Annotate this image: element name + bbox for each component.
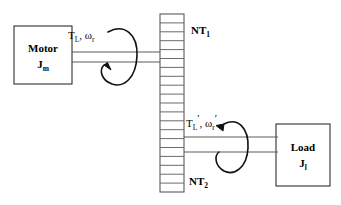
motor-name: Motor [14,42,72,55]
load-torque-symbol: T [186,117,193,129]
motor-rotation-arrowhead [104,63,111,71]
load-name: Load [276,141,330,154]
load-inertia: Jl [276,157,330,173]
motor-block-label: Motor Jm [14,42,72,73]
motor-torque-symbol: T [68,29,75,41]
gear-ratio-top-label: NT1 [191,24,210,39]
diagram-vector-layer [0,0,341,205]
diagram-canvas: Motor Jm Load Jl NT1 NT2 TL, ωr TL′, ωr′ [0,0,341,205]
motor-speed-symbol: ω [85,29,92,41]
motor-shaft-annotation: TL, ωr [68,25,95,44]
load-shaft-annotation: TL′, ωr′ [186,113,217,132]
load-rotation-arrowhead [216,124,224,131]
motor-inertia: Jm [14,58,72,74]
motor-rotation-arrow [101,29,137,85]
gear-ratio-bottom-label: NT2 [189,175,208,190]
load-block-label: Load Jl [276,141,330,172]
